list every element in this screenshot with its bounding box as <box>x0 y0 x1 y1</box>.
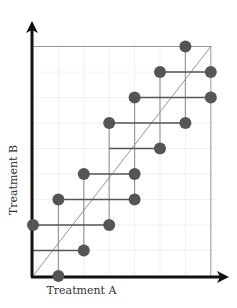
data-point <box>205 92 217 104</box>
data-point <box>129 168 141 180</box>
chart-canvas <box>0 0 237 308</box>
data-point <box>27 219 39 231</box>
data-point <box>103 117 115 129</box>
data-point <box>179 41 191 53</box>
axes <box>26 21 229 283</box>
data-point <box>179 117 191 129</box>
data-point <box>103 219 115 231</box>
data-point <box>129 194 141 206</box>
data-point <box>52 194 64 206</box>
data-point <box>129 92 141 104</box>
diagonal-line <box>33 47 211 277</box>
diagonal-reference-line <box>33 47 211 277</box>
data-point <box>154 143 166 155</box>
x-axis-label: Treatment A <box>0 284 163 297</box>
data-point <box>52 270 64 282</box>
data-point <box>154 66 166 78</box>
data-point <box>78 168 90 180</box>
data-point <box>205 66 217 78</box>
y-axis-label: Treatment B <box>7 145 20 215</box>
data-point <box>78 245 90 257</box>
